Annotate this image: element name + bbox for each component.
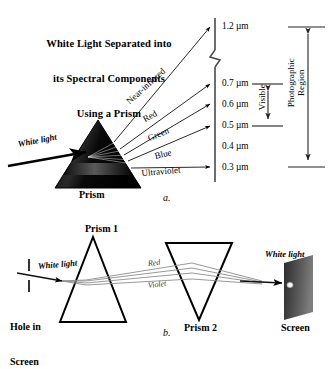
panel-b-label: b. (163, 327, 171, 338)
wavelength-axis (210, 18, 220, 182)
prism-1-shape (60, 237, 126, 322)
visible-range-label: Visible (257, 84, 267, 110)
photographic-region-label-line1: Photographic (286, 58, 296, 107)
scale-tick-1: 1.2 µm (222, 21, 249, 31)
white-light-arrow-b (17, 273, 62, 281)
prism-caption: Prism (79, 189, 105, 200)
prism-1-label: Prism 1 (85, 223, 118, 234)
scale-tick-4: 0.5 µm (222, 120, 249, 130)
prism-2-label: Prism 2 (184, 322, 217, 333)
ray-label-red: Red (147, 259, 160, 269)
photographic-region-label-line2: Region (296, 58, 306, 107)
white-light-label-output: White light (265, 250, 304, 260)
hole-in-screen-line1: Hole in (10, 321, 41, 333)
panel-a-label: a. (163, 192, 171, 203)
hole-in-screen-line2: Screen (10, 356, 41, 368)
screen-label: Screen (281, 322, 310, 333)
screen-shape (284, 255, 313, 320)
scale-tick-6: 0.3 µm (222, 162, 249, 172)
ray-near-infrared (114, 27, 210, 142)
hole-in-screen-label: Hole in Screen (10, 298, 41, 369)
photographic-region-label: Photographic Region (286, 58, 307, 107)
scale-tick-2: 0.7 µm (222, 78, 249, 88)
scale-tick-3: 0.6 µm (222, 99, 249, 109)
scale-tick-5: 0.4 µm (222, 141, 249, 151)
panel-a-artwork (8, 18, 325, 188)
